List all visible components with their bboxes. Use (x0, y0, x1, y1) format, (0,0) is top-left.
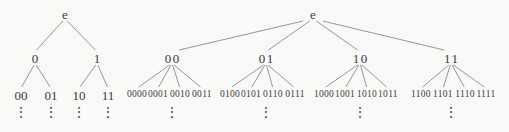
vertical-ellipsis-icon-right-3: ⋮ (444, 106, 458, 120)
tree-node-right-11: 11 (442, 52, 459, 65)
tree-node-right-1000: 1000 (314, 90, 334, 100)
tree-node-right-1001: 1001 (335, 90, 355, 100)
tree-node-left-1: 1 (94, 52, 101, 65)
tree-edge-left-0-00 (22, 65, 34, 87)
tree-node-left-10: 10 (73, 89, 86, 102)
tree-node-right-0000: 0000 (127, 90, 147, 100)
tree-node-right-10: 10 (351, 52, 369, 65)
vertical-ellipsis-icon-left-0: ⋮ (14, 106, 28, 120)
tree-edge-right-e-10 (316, 21, 357, 50)
vertical-ellipsis-icon-left-1: ⋮ (44, 106, 58, 120)
tree-edge-left-e-0 (37, 21, 63, 50)
tree-edge-right-11-1100 (423, 65, 449, 87)
tree-node-right-0111: 0111 (285, 90, 305, 100)
vertical-ellipsis-icon-right-0: ⋮ (165, 106, 179, 120)
tree-node-right-0010: 0010 (170, 90, 190, 100)
tree-node-right-1010: 1010 (357, 90, 377, 100)
vertical-ellipsis-icon-left-3: ⋮ (101, 106, 115, 120)
vertical-ellipsis-icon-right-2: ⋮ (353, 106, 367, 120)
tree-node-left-01: 01 (45, 89, 58, 102)
tree-node-right-00: 00 (163, 52, 181, 65)
tree-node-right-e: e (310, 8, 316, 21)
tree-edge-left-e-1 (67, 21, 95, 50)
tree-node-left-0: 0 (32, 52, 39, 65)
vertical-ellipsis-icon-right-1: ⋮ (259, 106, 273, 120)
tree-edge-left-1-11 (98, 65, 108, 87)
tree-node-right-0100: 0100 (220, 90, 240, 100)
tree-node-left-11: 11 (102, 89, 115, 102)
tree-node-right-1011: 1011 (378, 90, 398, 100)
diagram-canvas: e0100011011⋮⋮⋮⋮e000110110000000100100011… (0, 0, 509, 132)
tree-edge-left-0-01 (36, 65, 50, 87)
tree-node-right-0011: 0011 (192, 90, 212, 100)
tree-edge-right-e-01 (268, 21, 309, 50)
tree-node-right-01: 01 (257, 52, 275, 65)
tree-node-right-1110: 1110 (455, 90, 475, 100)
tree-edge-right-e-11 (323, 21, 444, 50)
tree-node-right-1111: 1111 (476, 90, 495, 100)
tree-node-right-0001: 0001 (148, 90, 168, 100)
tree-node-right-0110: 0110 (263, 90, 283, 100)
tree-node-left-00: 00 (15, 89, 28, 102)
tree-node-right-0101: 0101 (241, 90, 261, 100)
tree-node-right-1100: 1100 (411, 90, 431, 100)
tree-edge-right-00-0011 (174, 65, 200, 87)
vertical-ellipsis-icon-left-2: ⋮ (72, 106, 86, 120)
tree-node-right-1101: 1101 (433, 90, 453, 100)
tree-node-left-e: e (62, 8, 68, 21)
tree-edge-right-e-00 (179, 21, 303, 50)
tree-edge-left-1-10 (80, 65, 96, 87)
